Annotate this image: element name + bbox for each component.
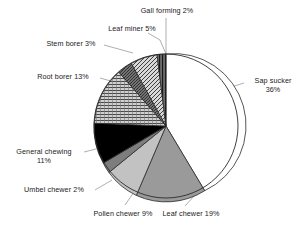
slice-label-stem-borer: Stem borer 3% [38,39,104,48]
pie-chart-figure: Gall forming 2% Leaf miner 5% Stem borer… [0,0,302,230]
pie-slices [94,54,246,202]
leader-line-leaf-miner [148,33,166,54]
slice-label-umbel-chewer: Umbel chewer 2% [14,185,94,194]
slice-label-sap-sucker-percent: 36% [247,85,299,94]
slice-label-sap-sucker-name: Sap sucker [247,76,299,85]
slice-label-sap-sucker: Sap sucker 36% [247,76,299,94]
leader-line-stem-borer [104,45,133,53]
slice-label-gall-forming-text: Gall forming 2% [141,6,194,15]
pie-chart-svg [0,0,302,230]
slice-label-stem-borer-text: Stem borer 3% [46,39,95,48]
slice-label-root-borer-text: Root borer 13% [37,72,89,81]
slice-label-leaf-miner: Leaf miner 5% [100,24,164,33]
slice-label-root-borer: Root borer 13% [27,72,99,81]
slice-label-umbel-chewer-text: Umbel chewer 2% [24,185,84,194]
slice-label-gall-forming: Gall forming 2% [131,6,203,15]
slice-label-general-chewing-percent: 11% [4,156,84,165]
slice-label-general-chewing: General chewing 11% [4,147,84,165]
slice-label-leaf-miner-text: Leaf miner 5% [108,24,156,33]
slice-label-general-chewing-name: General chewing [4,147,84,156]
slice-label-leaf-chewer-text: Leaf chewer 19% [162,209,219,218]
slice-label-leaf-chewer: Leaf chewer 19% [151,209,231,218]
slice-label-pollen-chewer-text: Pollen chewer 9% [93,209,152,218]
leader-line-umbel-chewer [95,180,112,190]
